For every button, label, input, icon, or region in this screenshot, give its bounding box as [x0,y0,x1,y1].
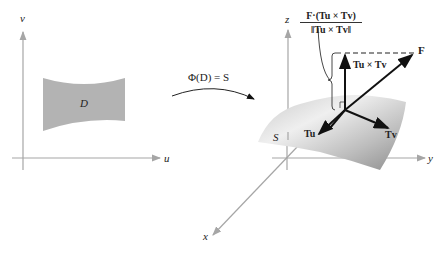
mapping-label: Φ(D) = S [188,72,229,83]
tangent-u-label: Tu [304,129,315,139]
formula-numerator: F·(Tu × Tv) [300,10,362,23]
diagram-canvas [0,0,444,255]
normal-component-formula: F·(Tu × Tv) ‖Tu × Tv‖ [300,10,362,35]
axis-z-label: z [285,14,289,25]
field-f-label: F [418,45,425,56]
axis-u-label: u [164,153,170,164]
mapping-arrow [172,89,254,99]
formula-leader [318,28,330,80]
axis-y-label: y [428,153,433,164]
formula-denominator: ‖Tu × Tv‖ [300,23,362,35]
surface-s-label: S [273,132,279,143]
region-d-label: D [80,98,88,109]
normal-vector-label: Tu × Tv [353,60,387,70]
axis-x-label: x [203,231,208,242]
x-axis [213,146,298,235]
tangent-v-label: Tv [385,130,397,140]
axis-v-label: v [20,13,25,24]
